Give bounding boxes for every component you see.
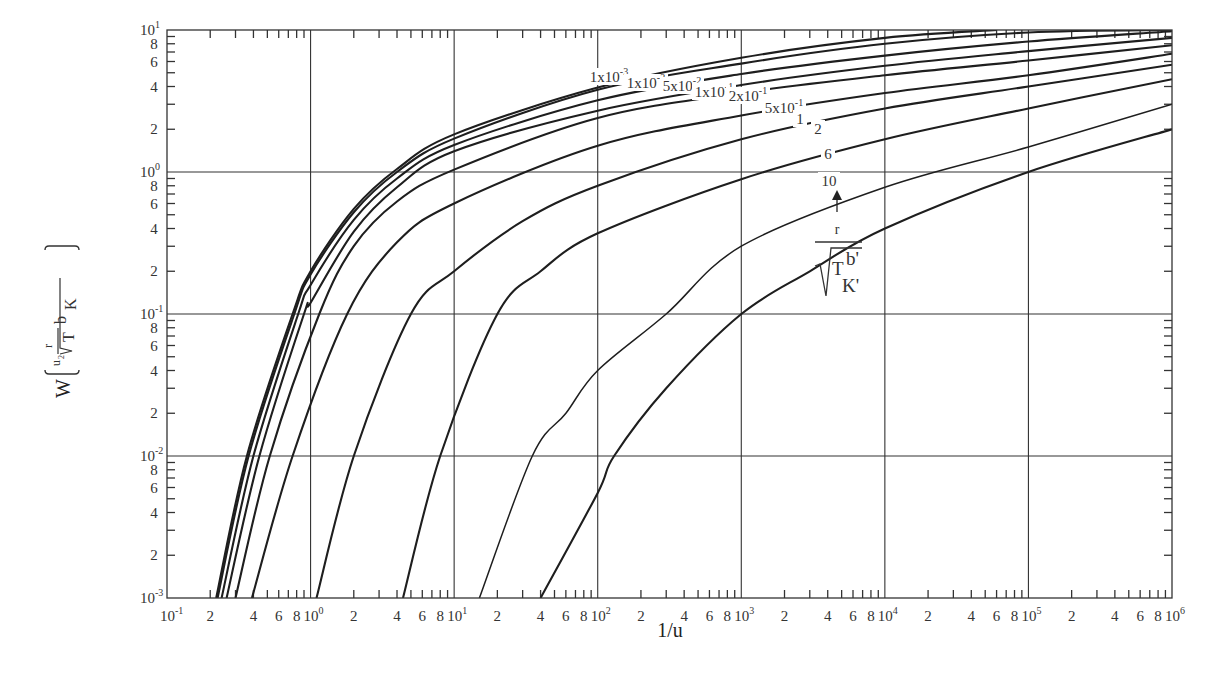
y-tick-labels: 10-3246810-2246810-124681002468101 bbox=[140, 19, 163, 606]
y-tick-label: 10-1 bbox=[140, 303, 163, 322]
svg-text:K': K' bbox=[842, 275, 859, 296]
well-function-chart: 10-1246810024681012468102246810324681042… bbox=[0, 0, 1209, 677]
y-tick-label: 6 bbox=[150, 338, 158, 354]
x-tick-label: 4 bbox=[250, 608, 258, 624]
x-tick-label: 8 bbox=[293, 608, 301, 624]
y-tick-label: 2 bbox=[150, 405, 158, 421]
svg-text:2: 2 bbox=[57, 355, 66, 359]
x-tick-label: 2 bbox=[1068, 608, 1076, 624]
y-tick-label: 8 bbox=[150, 462, 158, 478]
x-tick-label: 2 bbox=[494, 608, 502, 624]
x-tick-label: 103 bbox=[734, 605, 754, 624]
y-tick-label: 4 bbox=[150, 79, 158, 95]
x-tick-label: 8 bbox=[724, 608, 732, 624]
x-tick-label: 2 bbox=[350, 608, 358, 624]
x-tick-label: 8 bbox=[436, 608, 444, 624]
x-tick-label: 100 bbox=[304, 605, 324, 624]
x-axis-title: 1/u bbox=[657, 619, 683, 641]
y-tick-label: 10-3 bbox=[140, 587, 163, 606]
x-tick-label: 4 bbox=[824, 608, 832, 624]
x-tick-label: 4 bbox=[393, 608, 401, 624]
x-tick-label: 2 bbox=[781, 608, 789, 624]
y-axis-title: W u 2 r T b K bbox=[41, 246, 79, 398]
y-tick-label: 4 bbox=[150, 363, 158, 379]
curve-label: 10 bbox=[822, 173, 837, 189]
left-paren bbox=[45, 370, 79, 374]
curve-label: 1 bbox=[796, 111, 804, 127]
x-tick-label: 4 bbox=[968, 608, 976, 624]
y-tick-label: 6 bbox=[150, 196, 158, 212]
grid-lines bbox=[167, 30, 1172, 598]
x-tick-label: 101 bbox=[447, 605, 467, 624]
x-tick-label: 8 bbox=[867, 608, 875, 624]
x-tick-label: 6 bbox=[849, 608, 857, 624]
y-tick-label: 2 bbox=[150, 263, 158, 279]
x-tick-label: 6 bbox=[993, 608, 1001, 624]
right-paren bbox=[45, 246, 79, 250]
y-tick-label: 4 bbox=[150, 221, 158, 237]
curve-5x10-1 bbox=[252, 54, 1172, 598]
x-tick-label: 2 bbox=[637, 608, 645, 624]
x-tick-label: 106 bbox=[1165, 605, 1185, 624]
annotation-numerator: r bbox=[835, 222, 840, 237]
curve-10 bbox=[541, 129, 1172, 598]
x-tick-label: 105 bbox=[1021, 605, 1041, 624]
curve-label: 6 bbox=[824, 146, 832, 162]
svg-text:r: r bbox=[41, 344, 55, 348]
x-tick-label: 6 bbox=[1136, 608, 1144, 624]
x-tick-label: 6 bbox=[275, 608, 283, 624]
y-tick-label: 6 bbox=[150, 480, 158, 496]
x-tick-label: 8 bbox=[1011, 608, 1019, 624]
y-tick-label: 2 bbox=[150, 121, 158, 137]
svg-text:K: K bbox=[62, 298, 79, 310]
y-tick-label: 8 bbox=[150, 320, 158, 336]
y-tick-label: 2 bbox=[150, 547, 158, 563]
x-tick-label: 2 bbox=[206, 608, 214, 624]
curve-5x10-2 bbox=[222, 31, 1172, 598]
svg-text:b: b bbox=[52, 316, 69, 324]
y-tick-label: 8 bbox=[150, 178, 158, 194]
svg-text:T: T bbox=[60, 332, 77, 342]
x-tick-label: 8 bbox=[580, 608, 588, 624]
x-tick-label: 6 bbox=[419, 608, 427, 624]
y-title-w: W bbox=[52, 379, 74, 398]
y-tick-label: 6 bbox=[150, 54, 158, 70]
x-tick-label: 102 bbox=[591, 605, 611, 624]
curve-2 bbox=[403, 79, 1172, 598]
y-tick-label: 8 bbox=[150, 36, 158, 52]
y-tick-label: 10-2 bbox=[140, 445, 163, 464]
x-tick-label: 10-1 bbox=[160, 605, 183, 624]
x-tick-label: 8 bbox=[1154, 608, 1162, 624]
x-tick-label: 6 bbox=[706, 608, 714, 624]
curve-label: 2 bbox=[814, 121, 822, 137]
y-title-u: u bbox=[49, 360, 63, 366]
x-tick-label: 2 bbox=[924, 608, 932, 624]
x-tick-label: 4 bbox=[537, 608, 545, 624]
curve-2x10-1 bbox=[236, 45, 1173, 598]
x-tick-label: 104 bbox=[878, 605, 898, 624]
x-tick-label: 6 bbox=[562, 608, 570, 624]
curve-1 bbox=[317, 65, 1173, 598]
svg-text:b': b' bbox=[846, 248, 859, 269]
arrow-up-icon bbox=[832, 190, 842, 200]
x-tick-label: 4 bbox=[1111, 608, 1119, 624]
y-tick-label: 4 bbox=[150, 505, 158, 521]
